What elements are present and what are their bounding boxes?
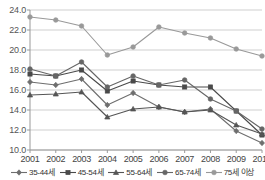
x-axis-label: 2001 [17, 154, 43, 164]
x-axis-label: 2005 [120, 154, 146, 164]
legend-marker-diamond-icon [11, 168, 27, 177]
data-point [163, 170, 168, 175]
y-axis-label: 12.0 [0, 125, 26, 135]
data-point [131, 79, 135, 83]
y-axis-label: 16.0 [0, 85, 26, 95]
legend-label: 75세 이상 [224, 169, 254, 177]
legend-marker-square-icon [60, 168, 76, 177]
data-point [28, 79, 33, 84]
x-axis-label: 2006 [146, 154, 172, 164]
x-axis-label: 2004 [94, 154, 120, 164]
data-point [234, 122, 239, 127]
data-point [211, 170, 216, 175]
data-point [234, 109, 239, 114]
legend-label: 55-64세 [126, 169, 152, 177]
data-point [183, 85, 187, 89]
chart-legend: 35-44세45-54세55-64세65-74세75세 이상 [0, 165, 265, 180]
y-axis-label: 22.0 [0, 25, 26, 35]
data-point [131, 74, 136, 79]
legend-label: 35-44세 [29, 169, 55, 177]
x-axis-label: 2002 [43, 154, 69, 164]
series-line-2 [30, 70, 262, 135]
data-point [16, 170, 21, 175]
data-point [157, 83, 162, 88]
x-axis-label: 2008 [197, 154, 223, 164]
data-point [105, 85, 110, 90]
data-point [28, 72, 32, 76]
data-point [53, 82, 58, 87]
data-point [105, 53, 110, 58]
data-point [131, 90, 136, 95]
data-point [79, 24, 84, 29]
legend-item-3[interactable]: 55-64세 [108, 168, 152, 177]
data-point [79, 60, 84, 65]
data-point [28, 67, 33, 72]
series-line-4 [30, 62, 262, 129]
x-axis-label: 2010 [249, 154, 265, 164]
series-line-3 [30, 92, 262, 134]
x-axis-label: 2003 [69, 154, 95, 164]
data-point [182, 78, 187, 83]
legend-item-4[interactable]: 65-74세 [157, 168, 201, 177]
data-point [66, 170, 70, 174]
y-axis-label: 18.0 [0, 65, 26, 75]
x-axis-label: 2009 [223, 154, 249, 164]
y-axis-label: 14.0 [0, 105, 26, 115]
chart-plot-area [0, 0, 265, 180]
data-point [260, 127, 265, 132]
legend-marker-circle-icon [206, 168, 222, 177]
legend-marker-circle-icon [157, 168, 173, 177]
data-point [208, 36, 213, 41]
series-line-1 [30, 79, 262, 143]
data-point [79, 68, 83, 72]
data-point [131, 45, 136, 50]
legend-label: 65-74세 [175, 169, 201, 177]
legend-label: 45-54세 [78, 169, 104, 177]
data-point [208, 85, 212, 89]
y-axis-label: 24.0 [0, 5, 26, 15]
y-axis-label: 20.0 [0, 45, 26, 55]
data-point [53, 18, 58, 23]
data-point [28, 15, 33, 20]
legend-item-5[interactable]: 75세 이상 [206, 168, 254, 177]
legend-item-2[interactable]: 45-54세 [60, 168, 104, 177]
data-point [182, 31, 187, 36]
legend-item-1[interactable]: 35-44세 [11, 168, 55, 177]
data-point [53, 74, 58, 79]
data-point [157, 25, 162, 30]
data-point [234, 47, 239, 52]
legend-marker-triangle-icon [108, 168, 124, 177]
data-point [260, 54, 265, 59]
line-chart: 35-44세45-54세55-64세65-74세75세 이상 24.022.02… [0, 0, 265, 180]
data-point [260, 140, 265, 145]
x-axis-label: 2007 [172, 154, 198, 164]
data-point [208, 97, 213, 102]
